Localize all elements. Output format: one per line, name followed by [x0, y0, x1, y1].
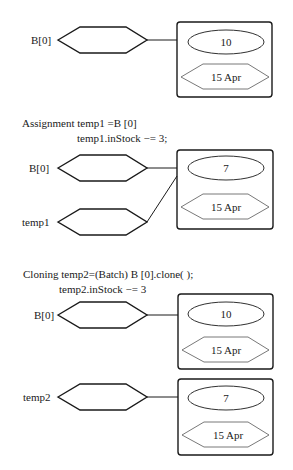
reference-label: temp1: [22, 216, 50, 228]
reference-label: B[0]: [29, 162, 49, 174]
date-value: 15 Apr: [186, 344, 266, 356]
instock-value: 7: [186, 162, 266, 174]
reference-hexagon-temp1: [58, 209, 147, 235]
date-value: 15 Apr: [186, 201, 266, 213]
instock-value: 10: [186, 308, 266, 320]
batch-object-box: [177, 22, 272, 97]
reference-arrow: [147, 176, 177, 222]
assignment-caption-line1: Assignment temp1 =B [0]: [22, 117, 137, 130]
date-value: 15 Apr: [186, 71, 266, 83]
reference-hexagon-temp2: [58, 384, 147, 410]
reference-hexagon-b0: [58, 155, 147, 181]
reference-label: B[0]: [34, 309, 54, 321]
reference-label: temp2: [23, 391, 51, 403]
instock-value: 7: [186, 392, 266, 404]
date-value: 15 Apr: [188, 429, 268, 441]
reference-hexagon-b0: [58, 302, 147, 328]
batch-object-box-clone: [178, 379, 273, 455]
section-1-graphics: [58, 22, 272, 97]
cloning-caption-line2: temp2.inStock −= 3: [59, 283, 146, 296]
instock-value: 10: [186, 36, 266, 48]
assignment-caption-line2: temp1.inStock −= 3;: [77, 132, 167, 145]
reference-hexagon-b0: [58, 27, 147, 53]
cloning-caption-line1: Cloning temp2=(Batch) B [0].clone( );: [23, 268, 193, 281]
batch-object-box-original: [178, 294, 273, 369]
reference-label: B[0]: [31, 34, 51, 46]
